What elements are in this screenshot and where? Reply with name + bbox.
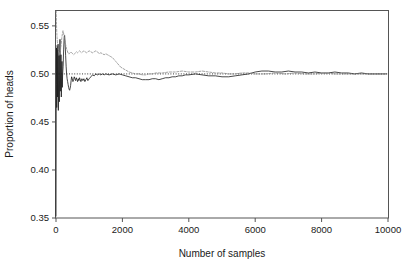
y-tick-label: 0.35 [31, 212, 50, 223]
x-tick-label: 2000 [112, 224, 133, 235]
x-tick-label: 8000 [311, 224, 332, 235]
x-tick-label: 6000 [245, 224, 266, 235]
coin-flip-convergence-chart: 0.350.400.450.500.55 0200040006000800010… [0, 0, 405, 264]
y-tick-label: 0.50 [31, 68, 50, 79]
chart-figure: 0.350.400.450.500.55 0200040006000800010… [0, 0, 405, 264]
y-axis-title: Proportion of heads [4, 70, 15, 157]
x-tick-label: 10000 [375, 224, 401, 235]
x-tick-label: 4000 [178, 224, 199, 235]
x-tick-label: 0 [53, 224, 58, 235]
x-axis-title: Number of samples [179, 248, 266, 259]
y-tick-label: 0.55 [31, 20, 50, 31]
y-tick-label: 0.45 [31, 116, 50, 127]
y-tick-label: 0.40 [31, 164, 50, 175]
chart-background [0, 0, 405, 264]
